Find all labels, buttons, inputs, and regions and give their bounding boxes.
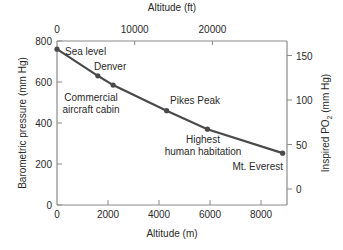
x-tick-label: 4000: [148, 209, 171, 220]
y-axis-title: Barometric pressure (mm Hg): [17, 57, 28, 189]
y-tick-label: 200: [35, 159, 52, 170]
x2-tick-label: 0: [54, 24, 60, 35]
data-point: [164, 108, 169, 113]
data-point: [111, 82, 116, 87]
annotation-habitation-line1: Highest: [186, 134, 220, 145]
x-tick-label: 2000: [97, 209, 120, 220]
annotation-habitation-line2: human habitation: [165, 146, 242, 157]
y-tick-label: 0: [46, 200, 52, 211]
y-tick-label: 400: [35, 118, 52, 129]
annotation-cabin-line1: Commercial: [64, 92, 117, 103]
axes: [57, 41, 287, 205]
top-axis-title: Altitude (ft): [148, 2, 196, 13]
data-point: [95, 73, 100, 78]
x-tick-label: 8000: [250, 209, 273, 220]
pressure-altitude-chart: 0200040006000800002004006008000100002000…: [0, 0, 343, 250]
annotation-denver: Denver: [94, 61, 127, 72]
annotation-cabin-line2: aircraft cabin: [62, 104, 119, 115]
y2-tick-label: 100: [296, 95, 313, 106]
x2-tick-label: 10000: [121, 24, 149, 35]
annotation-sea-level: Sea level: [65, 46, 106, 57]
y-tick-label: 800: [35, 36, 52, 47]
x-tick-label: 0: [54, 209, 60, 220]
annotation-mt-everest: Mt. Everest: [232, 161, 283, 172]
axis-ticks: [57, 41, 292, 205]
annotation-pikes-peak: Pikes Peak: [170, 95, 221, 106]
annotations: Sea level Denver Commercial aircraft cab…: [62, 46, 283, 172]
data-point: [205, 127, 210, 132]
data-point: [54, 47, 59, 52]
x-tick-label: 6000: [199, 209, 222, 220]
data-point: [280, 151, 285, 156]
y-tick-label: 600: [35, 77, 52, 88]
y2-axis-title: Inspired PO2 (mm Hg): [320, 74, 333, 172]
y2-tick-label: 50: [296, 140, 308, 151]
y2-title-main: Inspired PO: [320, 119, 331, 172]
x2-tick-label: 20000: [199, 24, 227, 35]
y2-title-tail: (mm Hg): [320, 74, 331, 116]
x-axis-title: Altitude (m): [146, 228, 197, 239]
y2-tick-label: 0: [296, 184, 302, 195]
y2-tick-label: 150: [296, 51, 313, 62]
